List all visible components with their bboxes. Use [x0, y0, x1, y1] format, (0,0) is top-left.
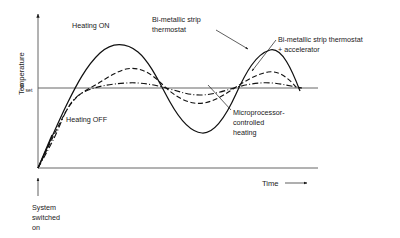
- annotation-microprocessor-line1: Microprocessor-: [233, 108, 285, 117]
- annotation-accelerator-line2: + accelerator: [278, 45, 320, 54]
- annotation-microprocessor-line3: heating: [233, 128, 257, 137]
- annotation-microprocessor: Microprocessor- controlled heating: [208, 85, 285, 137]
- annotation-accelerator-leader: [252, 40, 276, 71]
- annotation-microprocessor-leader: [208, 85, 231, 110]
- setpoint-theta-label: θ: [20, 81, 24, 90]
- system-switched-on-line2: switched: [32, 213, 60, 222]
- annotation-system-switched-on: System switched on: [32, 178, 60, 232]
- annotation-accelerator-line1: Bi-metallic strip thermostat: [278, 35, 363, 44]
- curve-group: [38, 45, 302, 168]
- heating-on-label: Heating ON: [72, 21, 110, 30]
- annotation-thermostat-leader: [216, 30, 248, 49]
- diagram-canvas: Temperature θ set Time Heating ON Heatin…: [0, 0, 400, 238]
- x-axis-label-group: Time: [262, 179, 307, 188]
- system-switched-on-line3: on: [32, 223, 40, 232]
- heating-off-label: Heating OFF: [66, 115, 108, 124]
- annotation-thermostat: Bi-metallic strip thermostat: [152, 15, 248, 49]
- annotation-accelerator: Bi-metallic strip thermostat + accelerat…: [252, 35, 363, 71]
- x-axis-label: Time: [262, 179, 279, 188]
- annotation-thermostat-line2: thermostat: [152, 25, 186, 34]
- annotation-thermostat-line1: Bi-metallic strip: [152, 15, 201, 24]
- annotation-microprocessor-line2: controlled: [233, 118, 264, 127]
- temperature-response-diagram: Temperature θ set Time Heating ON Heatin…: [0, 0, 400, 238]
- curve-bimetallic-strip-thermostat: [38, 45, 300, 168]
- startup-ramp: [38, 135, 52, 168]
- setpoint-subscript-label: set: [26, 87, 33, 93]
- system-switched-on-line1: System: [32, 203, 56, 212]
